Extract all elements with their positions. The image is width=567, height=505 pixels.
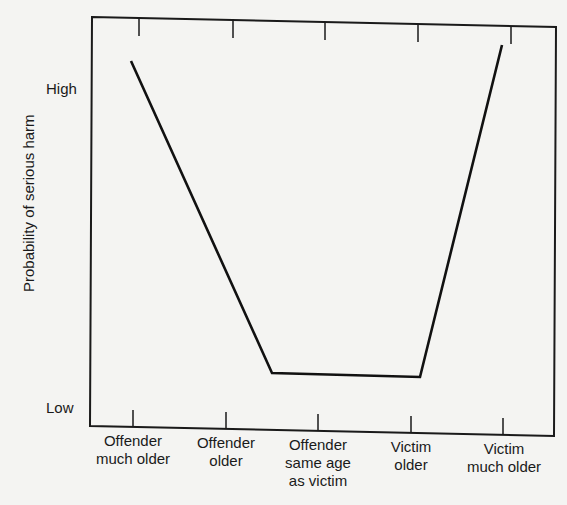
y-axis-title: Probability of serious harm — [20, 114, 37, 292]
y-tick-high: High — [46, 80, 77, 97]
x-label-victim-much-older: Victim much older — [454, 440, 554, 476]
y-tick-low: Low — [46, 399, 74, 416]
x-label-offender-same-age: Offender same age as victim — [270, 436, 366, 490]
x-label-offender-much-older: Offender much older — [83, 432, 183, 468]
harm-curve — [131, 45, 502, 377]
x-label-offender-older: Offender older — [186, 434, 266, 470]
chart-canvas — [0, 0, 567, 505]
x-label-victim-older: Victim older — [371, 438, 451, 474]
